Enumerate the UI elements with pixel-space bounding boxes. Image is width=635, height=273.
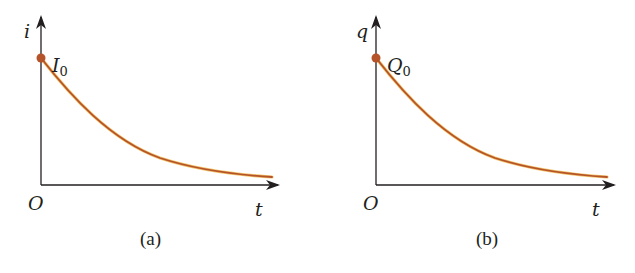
x-axis-label: t bbox=[592, 198, 600, 220]
x-axis-label: t bbox=[255, 198, 263, 220]
initial-value-dot bbox=[37, 54, 46, 63]
figure-canvas: i I0 O t (a) q Q0 O t (b) bbox=[0, 0, 635, 273]
panel-b: q Q0 O t (b) bbox=[356, 17, 614, 250]
panel-caption: (b) bbox=[476, 228, 498, 250]
panel-a: i I0 O t (a) bbox=[24, 17, 278, 250]
panel-caption: (a) bbox=[140, 228, 161, 250]
y-axis-label: i bbox=[24, 20, 30, 42]
initial-value-label: I0 bbox=[51, 54, 68, 79]
initial-value-label: Q0 bbox=[387, 54, 411, 79]
initial-value-dot bbox=[372, 54, 381, 63]
decay-curve bbox=[41, 58, 272, 177]
decay-curve-glow bbox=[41, 58, 272, 177]
origin-label: O bbox=[28, 192, 44, 214]
origin-label: O bbox=[363, 192, 379, 214]
y-axis-label: q bbox=[356, 20, 368, 42]
